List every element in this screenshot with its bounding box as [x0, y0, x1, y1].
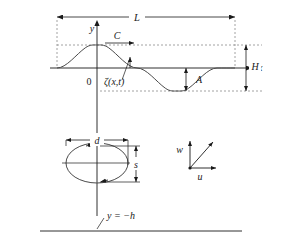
- velocity-vector-triad: w u: [176, 141, 216, 182]
- surface-elevation-label: ζ(x,t): [104, 76, 125, 88]
- vertical-velocity-label: w: [176, 144, 183, 155]
- amplitude-label: A: [195, 74, 203, 85]
- celerity-label: C: [114, 30, 121, 41]
- seabed-boundary: y = −h: [40, 210, 242, 231]
- amplitude-dimension: A: [186, 68, 203, 91]
- orbit-height-dimension: s: [100, 146, 143, 182]
- y-axis: y: [89, 20, 100, 216]
- y-axis-arrowhead: [94, 20, 99, 26]
- wave-diagram: L x y C ζ(x,t) 0 A: [0, 0, 282, 247]
- seabed-depth-label: y = −h: [106, 210, 135, 221]
- wave-height-label: H: [250, 61, 259, 72]
- wavelength-label: L: [133, 12, 140, 23]
- resultant-velocity-arrow: [190, 142, 213, 168]
- surface-elevation-indicator: ζ(x,t): [104, 57, 130, 88]
- orbit-height-label: s: [134, 159, 138, 170]
- wavelength-extension-lines: [57, 20, 235, 68]
- velocity-origin-dot: [188, 166, 191, 169]
- wavelength-dimension: L: [57, 10, 235, 24]
- wave-definition-figure: L x y C ζ(x,t) 0 A: [0, 0, 282, 247]
- origin-label: 0: [87, 76, 92, 87]
- seabed-leader-line: [97, 218, 104, 229]
- y-axis-label: y: [89, 23, 95, 34]
- orbit-direction-arrow-bottom: [101, 180, 108, 182]
- celerity-indicator: C: [105, 30, 134, 43]
- horizontal-velocity-label: u: [198, 171, 203, 182]
